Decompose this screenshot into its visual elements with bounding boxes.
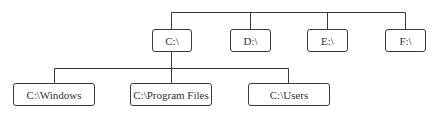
node-c-drive: C:\ — [152, 29, 192, 52]
directory-tree-diagram: C:\ D:\ E:\ F:\ C:\Windows C:\Program Fi… — [0, 0, 438, 118]
node-d-drive: D:\ — [230, 29, 271, 52]
node-c-windows: C:\Windows — [13, 83, 95, 106]
node-c-program-files: C:\Program Files — [130, 83, 212, 106]
node-c-users: C:\Users — [248, 83, 330, 106]
node-e-drive: E:\ — [307, 29, 348, 52]
node-f-drive: F:\ — [385, 29, 426, 52]
